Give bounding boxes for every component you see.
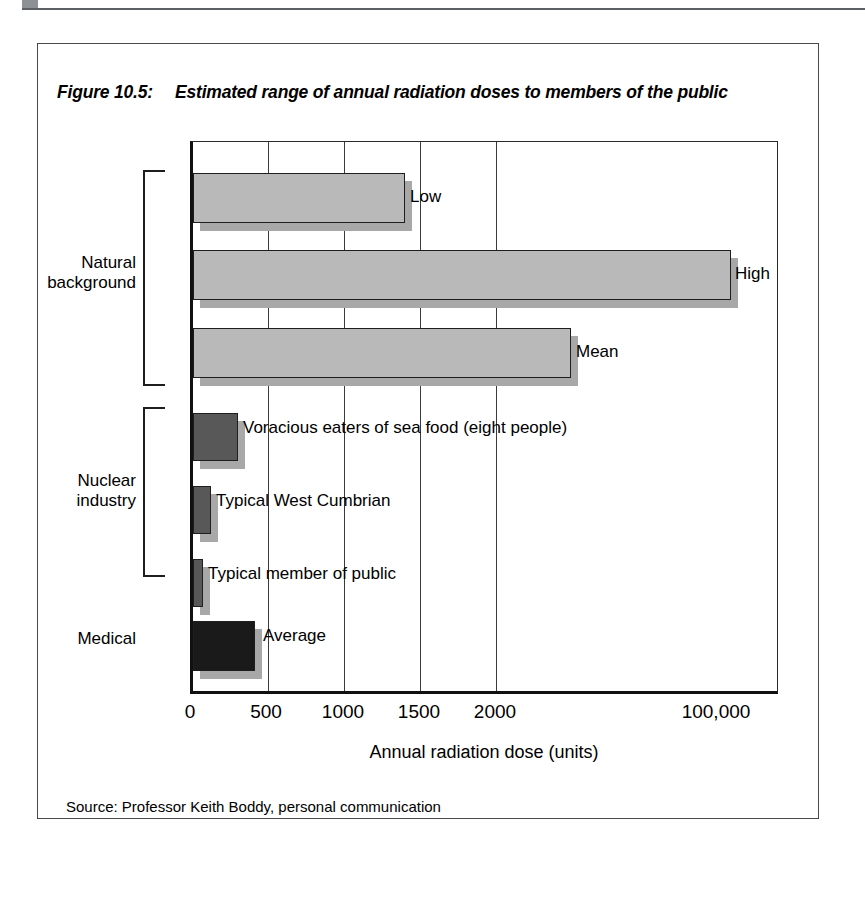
bar-voracious-eaters[interactable] xyxy=(193,413,238,461)
bar-label-high: High xyxy=(735,265,770,282)
bracket-nuclear-industry xyxy=(143,407,165,577)
bar-typical-west-cumbrian[interactable] xyxy=(193,486,211,534)
bar-mean[interactable] xyxy=(193,328,571,378)
bar-label-average: Average xyxy=(263,627,326,644)
bar-average[interactable] xyxy=(193,621,255,671)
source-note: Source: Professor Keith Boddy, personal … xyxy=(66,798,441,815)
page-top-rule xyxy=(22,8,865,10)
bar-label-mean: Mean xyxy=(576,343,619,360)
figure-title: Figure 10.5:Estimated range of annual ra… xyxy=(57,82,802,103)
xtick-500: 500 xyxy=(250,701,282,723)
bar-label-low: Low xyxy=(410,188,441,205)
xtick-1500: 1500 xyxy=(398,701,440,723)
figure-number: Figure 10.5: xyxy=(57,82,175,103)
figure-title-text: Estimated range of annual radiation dose… xyxy=(175,82,728,102)
bar-label-voracious: Voracious eaters of sea food (eight peop… xyxy=(243,419,567,436)
group-label-nuclear-industry: Nuclear industry xyxy=(40,471,136,511)
bar-low[interactable] xyxy=(193,173,405,223)
xtick-2000: 2000 xyxy=(474,701,516,723)
xtick-0: 0 xyxy=(185,701,196,723)
bar-typical-member-of-public[interactable] xyxy=(193,559,203,607)
bar-high[interactable] xyxy=(193,250,731,300)
gridline-2000 xyxy=(496,142,497,691)
bracket-natural-background xyxy=(143,170,165,386)
x-axis-title: Annual radiation dose (units) xyxy=(190,742,778,763)
bar-label-west-cumbrian: Typical West Cumbrian xyxy=(216,492,390,509)
group-label-natural-background: Natural background xyxy=(40,253,136,293)
xtick-100000: 100,000 xyxy=(682,701,751,723)
group-label-medical: Medical xyxy=(40,629,136,649)
gridline-1500 xyxy=(420,142,421,691)
bar-label-typical-member: Typical member of public xyxy=(208,565,396,582)
xtick-1000: 1000 xyxy=(322,701,364,723)
